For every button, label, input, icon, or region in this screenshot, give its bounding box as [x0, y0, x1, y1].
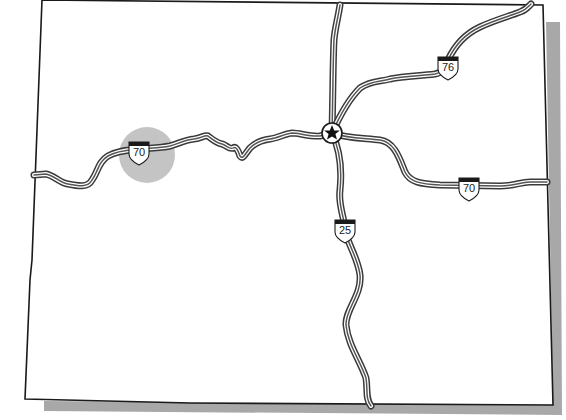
capital-star-icon[interactable] [322, 123, 342, 143]
shield-label: 76 [442, 61, 454, 73]
shield-label: 70 [463, 182, 475, 194]
state-map: 70 76 70 25 [0, 0, 566, 420]
shield-label: 25 [339, 224, 351, 236]
shield-label: 70 [133, 146, 145, 158]
state-outline [25, 0, 553, 405]
